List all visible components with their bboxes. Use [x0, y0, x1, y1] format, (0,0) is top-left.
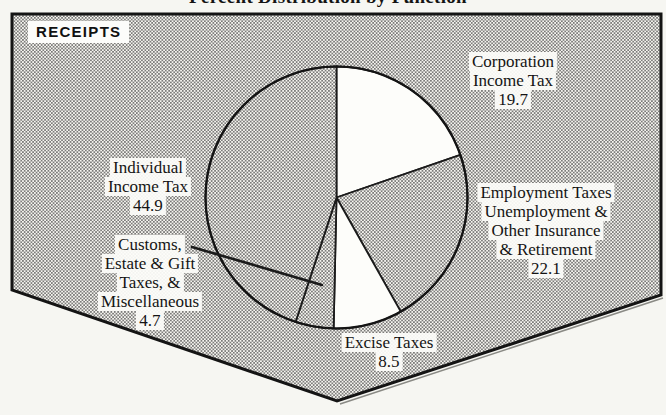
pie-label-line: Income Tax: [469, 71, 557, 90]
pie-label-line: Income Tax: [105, 177, 191, 196]
pie-label-line: Taxes, &: [98, 273, 202, 292]
pie-label-line: Other Insurance: [477, 221, 614, 240]
receipts-pie-figure: Percent Distribution by Function RECEIPT…: [0, 0, 666, 415]
label-excise-taxes: Excise Taxes8.5: [342, 333, 437, 371]
label-corporation-income-tax: CorporationIncome Tax19.7: [469, 52, 557, 109]
receipts-label: RECEIPTS: [28, 21, 129, 43]
pie-label-line: Miscellaneous: [98, 292, 202, 311]
label-customs-estate-gift: Customs,Estate & GiftTaxes, &Miscellaneo…: [98, 235, 202, 330]
pie-label-line: 44.9: [105, 196, 191, 215]
pie-label-line: Customs,: [98, 235, 202, 254]
label-employment-taxes: Employment TaxesUnemployment &Other Insu…: [477, 183, 614, 278]
label-individual-income-tax: IndividualIncome Tax44.9: [105, 158, 191, 215]
pie-label-line: 8.5: [342, 352, 437, 371]
pie-label-line: 19.7: [469, 90, 557, 109]
pie-label-line: Unemployment &: [477, 202, 614, 221]
pie-label-line: Estate & Gift: [98, 254, 202, 273]
pie-label-line: Individual: [105, 158, 191, 177]
chart-title: Percent Distribution by Function: [189, 0, 467, 8]
pie-label-line: 22.1: [477, 259, 614, 278]
pie-label-line: Corporation: [469, 52, 557, 71]
pie: [205, 67, 467, 329]
pie-label-line: & Retirement: [477, 240, 614, 259]
pie-label-line: Employment Taxes: [477, 183, 614, 202]
pie-label-line: 4.7: [98, 311, 202, 330]
pie-label-line: Excise Taxes: [342, 333, 437, 352]
